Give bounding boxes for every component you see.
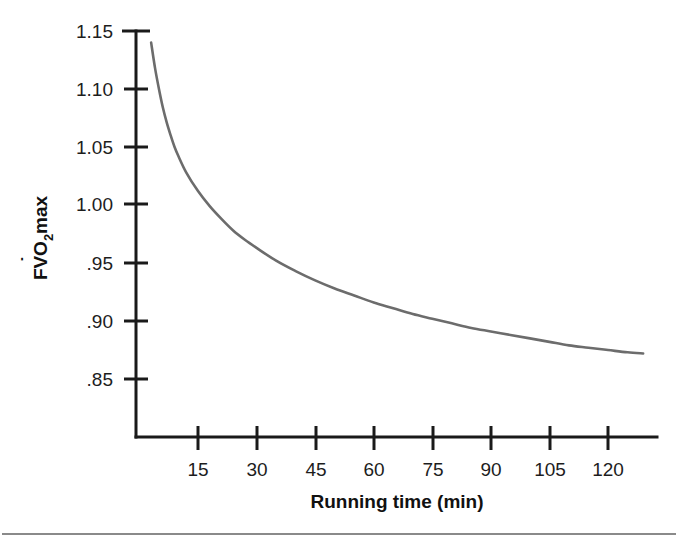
x-tick-label: 105: [534, 459, 566, 480]
y-tick-label: 1.00: [76, 194, 113, 215]
y-tick-label: 1.05: [76, 137, 113, 158]
y-axis-title: FV ˙ O 2 max: [18, 196, 56, 280]
figure-root: 1.15 1.10 1.05 1.00 .95 .90 .85 15 30 45…: [0, 0, 678, 542]
y-axis-tick-labels: 1.15 1.10 1.05 1.00 .95 .90 .85: [76, 21, 113, 390]
y-axis-title-suffix: max: [30, 196, 51, 234]
data-curve-line: [151, 43, 643, 354]
y-tick-label: .90: [87, 311, 113, 332]
y-axis-title-base: O: [30, 241, 51, 256]
y-tick-label: 1.15: [76, 21, 113, 42]
x-tick-label: 15: [187, 459, 208, 480]
x-tick-label: 45: [305, 459, 326, 480]
y-tick-label: .85: [87, 369, 113, 390]
x-axis-tick-labels: 15 30 45 60 75 90 105 120: [187, 459, 623, 480]
y-tick-label: .95: [87, 253, 113, 274]
x-tick-label: 60: [363, 459, 384, 480]
x-tick-label: 90: [480, 459, 501, 480]
chart-canvas: 1.15 1.10 1.05 1.00 .95 .90 .85 15 30 45…: [0, 0, 678, 542]
x-axis-title: Running time (min): [310, 491, 483, 512]
x-tick-label: 30: [246, 459, 267, 480]
x-tick-label: 75: [422, 459, 443, 480]
x-tick-label: 120: [592, 459, 624, 480]
y-tick-label: 1.10: [76, 79, 113, 100]
